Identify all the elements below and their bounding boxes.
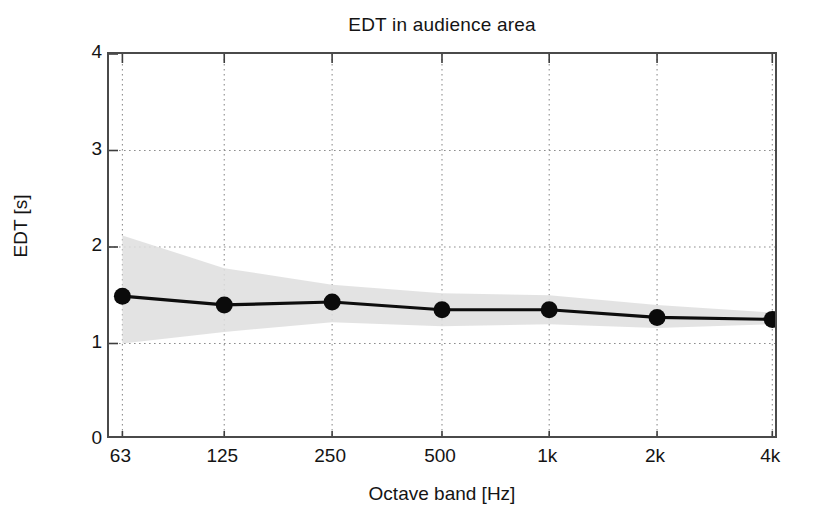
chart-figure: EDT in audience area 4 3 2 1 0 63 125 25… [0,0,815,532]
y-tick-label-2: 2 [68,235,102,254]
gridlines [109,54,777,438]
y-tick-label-0: 0 [68,428,102,447]
x-axis-tick-labels: 63 125 250 500 1k 2k 4k [0,446,815,472]
x-tick-label-250: 250 [314,446,346,465]
x-tick-label-125: 125 [206,446,238,465]
x-axis-title: Octave band [Hz] [107,483,777,505]
x-tick-label-4k: 4k [760,446,780,465]
x-tick-label-63: 63 [110,446,131,465]
plot-area [107,52,777,438]
y-axis-title: EDT [s] [10,161,32,291]
spread-band [122,235,772,343]
x-tick-label-2k: 2k [645,446,665,465]
chart-title: EDT in audience area [107,14,777,36]
data-point-1k [541,301,558,318]
data-point-250 [324,294,341,311]
x-tick-label-1k: 1k [537,446,557,465]
y-tick-label-4: 4 [68,42,102,61]
y-tick-label-3: 3 [68,139,102,158]
data-point-63 [114,288,131,305]
tick-marks [109,54,772,438]
data-point-500 [433,301,450,318]
data-point-125 [216,296,233,313]
y-tick-label-1: 1 [68,332,102,351]
x-tick-label-500: 500 [424,446,456,465]
plot-canvas [109,54,777,438]
data-point-2k [649,309,666,326]
